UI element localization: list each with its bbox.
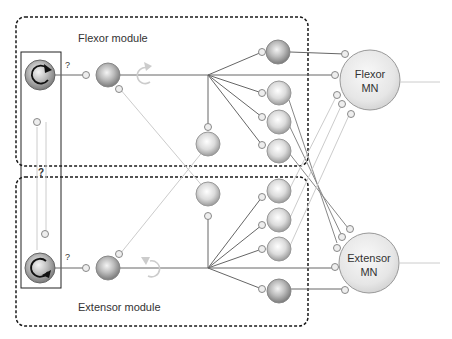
synapse xyxy=(83,265,90,272)
flexor-mn-label-2: MN xyxy=(361,82,378,94)
extensor-inhibitory-neuron-2 xyxy=(267,208,291,232)
coupling-synapse-bottom xyxy=(42,231,49,238)
extensor-excitatory-neuron xyxy=(267,279,291,303)
flexor-inhibitory-neuron-3 xyxy=(267,139,291,163)
extensor-interneuron xyxy=(196,182,220,206)
flexor-mn-label: Flexor xyxy=(355,68,386,80)
flexor-motoneuron xyxy=(340,50,400,110)
question-mark-flexor: ? xyxy=(65,60,70,70)
question-mark-extensor: ? xyxy=(65,252,70,262)
synapse xyxy=(205,213,212,220)
recurrent-loop-icon xyxy=(148,261,160,277)
recurrent-loop-icon xyxy=(137,68,150,84)
flexor-oscillator xyxy=(25,60,55,90)
flexor-excitatory-neuron xyxy=(266,40,290,64)
synapse xyxy=(205,124,212,131)
synapse xyxy=(116,251,123,258)
synapse xyxy=(116,86,123,93)
extensor-inhibitory-neuron-3 xyxy=(267,237,291,261)
extensor-input-neuron xyxy=(96,256,120,280)
flexor-excitatory-to-mn-line xyxy=(290,52,345,54)
extensor-oscillator xyxy=(25,253,55,283)
neural-circuit-diagram: Flexor module Extensor module ? ? ? xyxy=(0,0,452,339)
coupling-synapse-top xyxy=(34,119,41,126)
extensor-mn-label: Extensor xyxy=(347,252,391,264)
flexor-inhibitory-neuron-2 xyxy=(267,110,291,134)
flexor-interneuron xyxy=(196,132,220,156)
flexor-module-label: Flexor module xyxy=(78,32,148,44)
synapse xyxy=(83,72,90,79)
question-mark-coupling: ? xyxy=(38,167,44,178)
fanout-synapses xyxy=(259,49,266,293)
extensor-mn-label-2: MN xyxy=(360,266,377,278)
cross-line-extensor-to-flexor xyxy=(120,145,208,254)
extensor-to-flexor-mn-lines xyxy=(289,95,350,248)
extensor-module-label: Extensor module xyxy=(78,301,161,313)
flexor-input-neuron xyxy=(96,63,120,87)
flexor-inhibitory-neuron-1 xyxy=(267,81,291,105)
extensor-inhibitory-neuron-1 xyxy=(267,179,291,203)
